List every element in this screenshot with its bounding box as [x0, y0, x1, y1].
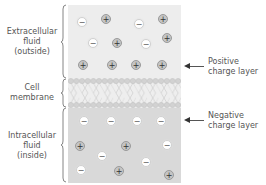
- extracellular-bracket-icon: [61, 5, 66, 78]
- lipid-bilayer-graphic: [68, 78, 181, 108]
- negative-ion-icon: −: [141, 39, 151, 49]
- positive-ion-icon: +: [112, 38, 122, 48]
- positive-ion-icon: +: [158, 14, 168, 24]
- negative-charge-label: Negative charge layer: [208, 111, 258, 131]
- negative-ion-icon: −: [77, 17, 87, 27]
- positive-ion-icon: +: [107, 60, 117, 70]
- positive-ion-icon: +: [157, 60, 167, 70]
- positive-ion-icon: +: [75, 141, 85, 151]
- positive-ion-icon: +: [162, 33, 172, 43]
- positive-label-line-2: charge layer: [208, 67, 258, 77]
- positive-arrow-line: [190, 66, 204, 67]
- membrane-bracket-icon: [61, 79, 66, 107]
- negative-ion-icon: −: [132, 116, 142, 126]
- positive-ion-icon: +: [101, 14, 111, 24]
- positive-ion-icon: +: [121, 141, 131, 151]
- intracellular-label-line-2: fluid: [4, 141, 60, 151]
- membrane-diagram-panel: [68, 5, 181, 183]
- positive-ion-icon: +: [131, 60, 141, 70]
- negative-label-line-1: Negative: [208, 111, 258, 121]
- negative-ion-icon: −: [79, 116, 89, 126]
- cell-membrane-region: [68, 78, 181, 108]
- positive-charge-label: Positive charge layer: [208, 57, 258, 77]
- negative-ion-icon: −: [134, 19, 144, 29]
- negative-arrow-line: [190, 120, 204, 121]
- positive-ion-icon: +: [114, 166, 124, 176]
- negative-ion-icon: −: [88, 38, 98, 48]
- extracellular-label-line-3: (outside): [4, 47, 60, 57]
- membrane-label-line-1: Cell: [4, 83, 60, 93]
- negative-ion-icon: −: [76, 165, 86, 175]
- negative-label-line-2: charge layer: [208, 121, 258, 131]
- extracellular-label-line-2: fluid: [4, 37, 60, 47]
- membrane-label-line-2: membrane: [4, 93, 60, 103]
- extracellular-label-line-1: Extracellular: [4, 27, 60, 37]
- positive-label-line-1: Positive: [208, 57, 258, 67]
- intracellular-bracket-icon: [61, 108, 66, 182]
- negative-ion-icon: −: [162, 140, 172, 150]
- intracellular-label: Intracellular fluid (inside): [4, 131, 60, 161]
- negative-ion-icon: −: [156, 116, 166, 126]
- intracellular-label-line-1: Intracellular: [4, 131, 60, 141]
- positive-ion-icon: +: [164, 170, 174, 180]
- membrane-label: Cell membrane: [4, 83, 60, 103]
- extracellular-label: Extracellular fluid (outside): [4, 27, 60, 57]
- intracellular-label-line-3: (inside): [4, 151, 60, 161]
- negative-ion-icon: −: [141, 157, 151, 167]
- positive-ion-icon: +: [78, 60, 88, 70]
- negative-ion-icon: −: [97, 151, 107, 161]
- negative-ion-icon: −: [106, 116, 116, 126]
